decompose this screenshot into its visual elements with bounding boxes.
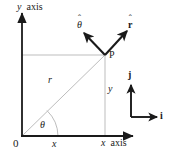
r-hat-caret: ˆ: [129, 14, 132, 23]
y-axis-label: y axis: [17, 2, 43, 12]
radius-label: r: [48, 75, 52, 85]
diagram-canvas: [0, 0, 174, 158]
j-vector-label: j: [128, 70, 131, 80]
angle-label: θ: [40, 120, 45, 130]
x-axis-label: x axis: [101, 138, 127, 148]
x-axis-label-letter: x: [101, 137, 105, 148]
theta-hat-label: ˆ θ: [77, 20, 82, 30]
angle-arc: [47, 111, 58, 136]
x-projection-label: x: [52, 139, 56, 149]
y-axis-label-word: axis: [24, 1, 43, 12]
radius-line: [22, 55, 105, 136]
i-vector-label: i: [160, 111, 163, 121]
theta-hat-caret: ˆ: [78, 14, 81, 23]
y-projection-label: y: [108, 84, 112, 94]
theta-hat-vector: [84, 33, 105, 55]
origin-label: 0: [13, 138, 19, 149]
polar-coordinates-diagram: y axis x axis 0 x y r θ P ˆ r ˆ θ j i: [0, 0, 174, 158]
point-p-label: P: [109, 50, 115, 60]
y-axis-label-letter: y: [17, 1, 21, 12]
r-hat-label: ˆ r: [128, 20, 132, 30]
x-axis-label-word: axis: [108, 137, 127, 148]
